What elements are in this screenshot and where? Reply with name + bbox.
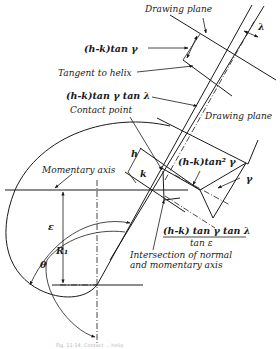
leader-hk-tan2 xyxy=(193,171,200,185)
triangle-bottom xyxy=(200,190,213,218)
label-gamma: γ xyxy=(246,173,253,184)
label-drawing-plane-right: Drawing plane xyxy=(204,111,272,121)
strip-bottom xyxy=(125,172,185,212)
label-h: h xyxy=(131,148,138,159)
label-momentary-axis: Momentary axis xyxy=(41,165,116,175)
dim-k xyxy=(128,172,136,183)
figure-caption: Fig. 11-14. Contact ... helix xyxy=(56,342,123,349)
label-contact-point: Contact point xyxy=(70,105,132,115)
outer-arc xyxy=(6,122,170,297)
label-drawing-plane-top: Drawing plane xyxy=(144,4,212,14)
contact-vertical xyxy=(163,171,164,200)
label-intersection-1: Intersection of normal xyxy=(129,250,232,260)
leader-contact-point xyxy=(130,117,162,170)
label-r1: R₁ xyxy=(55,245,68,256)
label-intersection-2: and momentary axis xyxy=(130,260,223,270)
strip-top xyxy=(140,148,200,190)
triangle-right xyxy=(213,163,246,218)
leader-gamma xyxy=(218,178,240,188)
strip-bottom-dash xyxy=(165,196,215,228)
label-k: k xyxy=(140,168,147,179)
label-tangent-to-helix: Tangent to helix xyxy=(58,68,132,78)
fraction-numerator: (h-k) tan γ tan λ xyxy=(163,225,251,236)
helix-contact-diagram: Drawing plane λ (h-k)tan γ Tangent to he… xyxy=(0,0,280,349)
formula-fraction: (h-k) tan γ tan λ tan ε xyxy=(163,225,251,248)
label-epsilon: ε xyxy=(48,221,54,232)
leader-momentary-axis xyxy=(55,174,72,188)
leader-hk-tan-lambda xyxy=(152,97,197,106)
drawing-plane-right-leader xyxy=(248,140,258,164)
fraction-denominator: tan ε xyxy=(190,238,213,248)
label-hk-tan2-gamma: (h-k)tan² γ xyxy=(178,156,236,167)
leader-drawing-plane-top xyxy=(203,18,206,33)
label-hk-tan-gamma-tan-lambda: (h-k)tan γ tan λ xyxy=(66,90,150,101)
leader-tangent xyxy=(137,66,193,72)
label-hk-tan-gamma: (h-k)tan γ xyxy=(84,43,138,54)
tangent-line xyxy=(183,60,232,96)
label-theta: θ xyxy=(40,259,47,270)
ext-line xyxy=(183,34,200,60)
dim-hk-tan-gamma xyxy=(187,36,197,58)
label-lambda-top: λ xyxy=(257,21,265,32)
